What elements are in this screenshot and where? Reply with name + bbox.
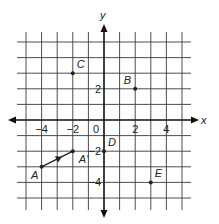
x-tick-label: −2 bbox=[67, 123, 80, 135]
point-label: A bbox=[30, 169, 38, 181]
point-a-prime bbox=[71, 149, 75, 153]
x-axis-label: x bbox=[200, 114, 207, 126]
x-tick-label: 0 bbox=[93, 123, 99, 135]
plotted-points: AA'BCDE bbox=[30, 58, 163, 184]
coordinate-plane: −4−20242−2−4 AA'BCDE x y bbox=[0, 0, 219, 224]
y-axis-up-arrow-icon bbox=[101, 24, 108, 32]
point-label: B bbox=[124, 74, 131, 86]
x-axis-left-arrow-icon bbox=[8, 117, 16, 124]
point-d bbox=[102, 149, 106, 153]
y-tick-label: −4 bbox=[88, 176, 101, 188]
y-tick-label: 2 bbox=[95, 83, 101, 95]
y-axis-label: y bbox=[99, 9, 107, 21]
x-tick-label: 2 bbox=[132, 123, 138, 135]
point-a bbox=[40, 165, 44, 169]
axes bbox=[8, 24, 199, 218]
point-c bbox=[71, 71, 75, 75]
point-label: C bbox=[77, 58, 85, 70]
point-b bbox=[133, 87, 137, 91]
point-label: E bbox=[155, 167, 163, 179]
x-axis-right-arrow-icon bbox=[191, 117, 199, 124]
point-label: A' bbox=[78, 153, 89, 165]
x-tick-label: 4 bbox=[163, 123, 169, 135]
y-tick-label: −2 bbox=[88, 145, 101, 157]
point-e bbox=[149, 180, 153, 184]
x-tick-label: −4 bbox=[35, 123, 48, 135]
point-label: D bbox=[108, 136, 116, 148]
y-axis-down-arrow-icon bbox=[101, 210, 108, 218]
